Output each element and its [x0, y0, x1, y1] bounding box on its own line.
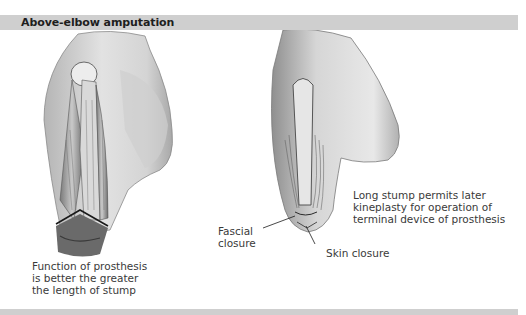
left-caption: Function of prosthesis is better the gre…: [32, 260, 147, 296]
right-caption: Long stump permits later kineplasty for …: [353, 189, 505, 225]
section-title: Above-elbow amputation: [21, 15, 174, 30]
section-header-bar: Above-elbow amputation: [0, 15, 518, 30]
next-section-header-bar: [0, 309, 518, 315]
skin-closure-label: Skin closure: [326, 247, 389, 259]
fascial-closure-label: Fascial closure: [218, 225, 256, 249]
